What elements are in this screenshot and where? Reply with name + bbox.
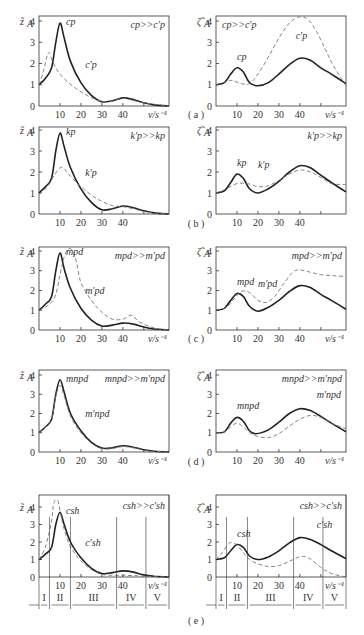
chart-c-right: 0123410203040ν/s⁻¹ζ̃Ampd>>m′pdmpdm′pd( c… [188,246,346,346]
series-label: csh [237,528,250,539]
series-label: m′npd [317,389,342,400]
y-tick-label: 3 [207,146,212,157]
series-k-p [39,133,169,214]
condition-annotation: k′p>>kp [307,130,342,141]
condition-annotation: mpd>>m′pd [292,250,343,261]
condition-annotation: mpd>>m′pd [115,250,166,261]
x-tick-label: 10 [232,580,242,591]
series-label: c′sh [317,519,333,530]
series-k-p [216,165,346,193]
x-tick-label: 40 [295,109,305,120]
y-tick-label: 0 [207,209,212,220]
region-label: I [43,592,46,603]
figure: 0123410203040ν/s⁻¹z̃Acp>>c′pcpc′p0123410… [0,0,364,635]
x-tick-label: 40 [295,455,305,466]
chart-a-right: 0123410203040ν/s⁻¹ζ̃Acp>>c′pcpc′p( a ) [188,16,346,122]
svg-text:A: A [203,127,211,138]
x-tick-label: 40 [118,333,128,344]
x-tick-label: 30 [97,217,107,228]
series-c-sh [39,512,169,577]
series-label: mnpd [66,373,89,384]
x-tick-label: 30 [274,455,284,466]
series-label: kp [66,126,75,137]
series-c-p [39,23,169,106]
y-tick-label: 3 [207,519,212,530]
y-tick-label: 0 [207,447,212,458]
y-tick-label: 2 [30,285,35,296]
x-tick-label: 30 [97,455,107,466]
x-tick-label: 40 [295,333,305,344]
y-tick-label: 0 [30,325,35,336]
series-label: c′sh [85,537,101,548]
x-axis-label: ν/s⁻¹ [325,455,344,466]
y-tick-label: 3 [30,265,35,276]
x-axis-label: ν/s⁻¹ [148,109,167,120]
series-label: csh [66,505,79,516]
x-tick-label: 30 [274,109,284,120]
chart-e-left: 0123410203040ν/s⁻¹z̃Acsh>>c′shcshc′shIII… [19,495,169,609]
series-m-npd [216,409,346,434]
series-label: kp [237,157,246,168]
region-label: V [154,592,162,603]
series-kprime-p [39,167,169,214]
x-tick-label: 40 [118,580,128,591]
chart-a-left: 0123410203040ν/s⁻¹z̃Acp>>c′pcpc′p [19,16,169,121]
y-tick-label: 0 [30,447,35,458]
x-tick-label: 40 [295,217,305,228]
x-tick-label: 20 [253,333,263,344]
region-label: I [220,592,223,603]
x-tick-label: 30 [97,333,107,344]
series-cprime-sh [39,500,169,577]
x-tick-label: 20 [253,109,263,120]
y-tick-label: 1 [30,427,35,438]
x-tick-label: 30 [274,333,284,344]
region-label: IV [303,592,314,603]
region-label: IV [126,592,137,603]
y-tick-label: 0 [207,572,212,583]
x-tick-label: 30 [97,580,107,591]
y-tick-label: 1 [207,305,212,316]
svg-text:A: A [26,248,34,259]
x-axis-label: ν/s⁻¹ [148,580,167,591]
x-tick-label: 20 [76,333,86,344]
y-tick-label: 2 [30,408,35,419]
y-tick-label: 0 [30,209,35,220]
y-tick-label: 1 [30,188,35,199]
region-label: III [89,592,99,603]
panel-caption: ( d ) [188,456,205,468]
region-label: III [266,592,276,603]
y-tick-label: 1 [207,427,212,438]
y-tick-label: 3 [30,37,35,48]
panel-caption: ( b ) [188,218,205,230]
y-axis-label: z̃ [19,125,24,136]
y-tick-label: 2 [207,58,212,69]
y-tick-label: 3 [30,389,35,400]
x-tick-label: 30 [97,109,107,120]
x-axis-label: ν/s⁻¹ [325,580,344,591]
y-tick-label: 2 [207,537,212,548]
chart-d-right: 0123410203040ν/s⁻¹ζ̃Amnpd>>m′npdmnpdm′np… [188,370,346,469]
x-tick-label: 10 [55,455,65,466]
chart-b-right: 0123410203040ζ̃Ak′p>>kpkpk′p( b ) [188,125,346,231]
x-tick-label: 40 [118,455,128,466]
y-axis-label: z̃ [19,16,24,27]
x-tick-label: 20 [76,109,86,120]
series-label: k′p [258,159,270,170]
y-tick-label: 0 [30,101,35,112]
panel-caption: ( e ) [188,615,204,627]
y-tick-label: 2 [207,408,212,419]
y-tick-label: 1 [207,554,212,565]
y-tick-label: 3 [207,265,212,276]
series-cprime-p [39,52,169,106]
series-label: mnpd [237,400,260,411]
condition-annotation: cp>>c′p [222,19,257,30]
series-label: cp [237,51,246,62]
condition-annotation: mnpd>>m′npd [105,373,166,384]
y-axis-label: z̃ [19,370,24,381]
x-tick-label: 10 [55,109,65,120]
y-tick-label: 1 [30,305,35,316]
chart-c-left: 0123410203040ν/s⁻¹z̃Ampd>>m′pdmpdm′pd [19,246,169,345]
condition-annotation: csh>>c′sh [300,500,342,511]
series-label: c′p [85,59,97,70]
series-kprime-p [216,170,346,193]
